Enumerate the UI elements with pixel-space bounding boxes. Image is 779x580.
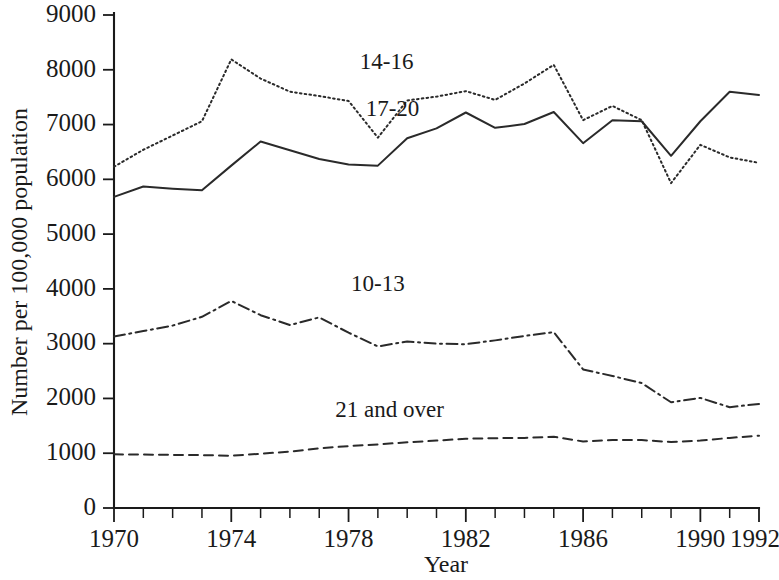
y-axis: 0100020003000400050006000700080009000 xyxy=(46,0,114,520)
y-tick-label: 9000 xyxy=(46,0,96,27)
x-tick-label: 1974 xyxy=(206,525,257,552)
y-tick-label: 4000 xyxy=(46,274,96,301)
series-label-10-13: 10-13 xyxy=(351,271,405,296)
x-tick-label: 1978 xyxy=(324,525,374,552)
y-tick-label: 7000 xyxy=(46,109,96,136)
y-tick-label: 1000 xyxy=(46,438,96,465)
y-tick-label: 0 xyxy=(84,493,97,520)
series-label-17-20: 17-20 xyxy=(366,96,420,121)
x-axis-title: Year xyxy=(424,551,468,577)
x-tick-label: 1986 xyxy=(558,525,608,552)
x-tick-label: 1990 xyxy=(675,525,725,552)
x-tick-label: 1970 xyxy=(89,525,139,552)
x-tick-label: 1992 xyxy=(730,525,779,552)
series-line-21-and-over xyxy=(114,436,759,456)
series-label-21-and-over: 21 and over xyxy=(335,397,444,422)
series-label-14-16: 14-16 xyxy=(360,49,414,74)
series-line-10-13 xyxy=(114,301,759,407)
series-line-17-20 xyxy=(114,92,759,197)
series-line-14-16 xyxy=(114,59,759,183)
y-tick-label: 6000 xyxy=(46,164,96,191)
line-chart: 0100020003000400050006000700080009000 19… xyxy=(0,0,779,580)
y-tick-label: 5000 xyxy=(46,219,96,246)
y-tick-label: 3000 xyxy=(46,328,96,355)
chart-container: 0100020003000400050006000700080009000 19… xyxy=(0,0,779,580)
x-axis: 1970197419781982198619901992 xyxy=(89,508,779,552)
y-axis-title: Number per 100,000 population xyxy=(6,108,32,416)
y-tick-label: 2000 xyxy=(46,383,96,410)
x-tick-label: 1982 xyxy=(441,525,491,552)
y-tick-label: 8000 xyxy=(46,55,96,82)
